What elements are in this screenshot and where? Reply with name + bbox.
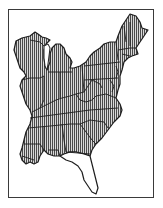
hatched-range-area xyxy=(14,14,148,164)
florida-peninsula xyxy=(60,152,98,194)
range-map xyxy=(0,0,163,208)
